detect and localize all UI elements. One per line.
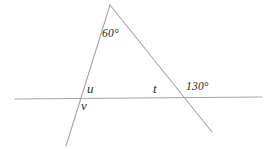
exterior-angle-label: 130° [186, 81, 209, 93]
angle-v-label: v [81, 99, 87, 112]
geometry-figure: 60° u v t 130° [0, 0, 276, 149]
angle-t-label: t [153, 82, 157, 95]
right-slanted-line [110, 5, 212, 132]
apex-angle-label: 60° [102, 28, 119, 40]
horizontal-transversal-line [15, 97, 262, 99]
angle-u-label: u [87, 82, 94, 95]
figure-canvas [0, 0, 276, 149]
